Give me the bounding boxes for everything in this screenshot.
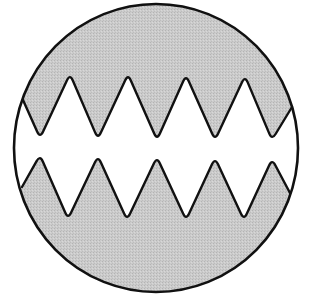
diagram-canvas: [0, 0, 310, 301]
zigzag-circle-diagram: Circular field with interlocking zigzag …: [0, 0, 310, 301]
